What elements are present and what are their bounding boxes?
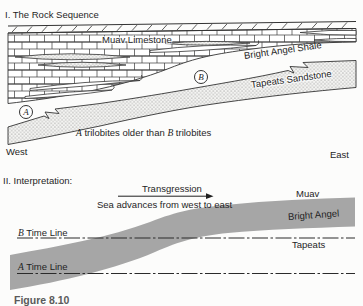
marker-b-circle: B <box>195 71 208 84</box>
a-time-line-letter: A <box>18 262 24 272</box>
sea-advance-label: Sea advances from west to east <box>97 199 232 210</box>
section2-title: II. Interpretation: <box>3 175 72 186</box>
west-label: West <box>6 146 27 157</box>
trilobite-note: A trilobites older than B trilobites <box>76 127 211 139</box>
a-time-line-text: Time Line <box>26 261 67 272</box>
b-time-line-label: B Time Line <box>18 227 68 239</box>
figure-caption: Figure 8.10 <box>14 294 69 306</box>
east-label: East <box>330 149 349 160</box>
trilobite-note-a: A <box>76 128 82 138</box>
marker-b-letter: B <box>198 72 204 82</box>
b-time-line-letter: B <box>18 228 24 238</box>
trilobite-note-b: B <box>167 128 173 138</box>
muav-unit-label: Muav <box>296 188 319 199</box>
trilobite-note-mid: trilobites older than <box>84 127 164 138</box>
muav-limestone-label: Muav Limestone <box>102 34 172 45</box>
trilobite-note-end: trilobites <box>176 127 211 138</box>
marker-a-circle: A <box>20 106 33 119</box>
transgression-label: Transgression <box>142 183 202 194</box>
tapeats-unit-label: Tapeats <box>292 239 325 250</box>
b-time-line-text: Time Line <box>26 227 67 238</box>
a-time-line-label: A Time Line <box>18 261 68 273</box>
marker-a-letter: A <box>22 107 29 117</box>
section1-title: I. The Rock Sequence <box>5 9 99 20</box>
